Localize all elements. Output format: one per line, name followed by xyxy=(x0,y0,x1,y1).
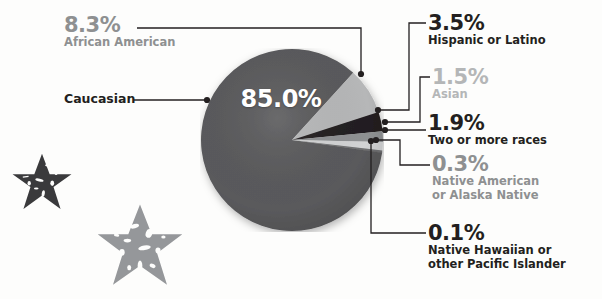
callout-hispanic-label: Hispanic or Latino xyxy=(428,34,546,48)
callout-african-american-percent: 8.3% xyxy=(64,14,175,36)
callout-native-hawaiian-label-line2: other Pacific Islander xyxy=(428,258,566,272)
callout-native-hawaiian-label-line1: Native Hawaiian or xyxy=(428,244,566,258)
callout-two-or-more-races: 1.9% Two or more races xyxy=(428,112,547,148)
pie-center-value: 85.0% xyxy=(221,85,341,113)
callout-native-hawaiian-percent: 0.1% xyxy=(428,222,566,244)
pie-chart-svg xyxy=(200,48,384,232)
pie-chart xyxy=(200,48,384,232)
pie-slices xyxy=(201,49,383,231)
callout-african-american: 8.3% African American xyxy=(64,14,175,50)
callout-asian-label: Asian xyxy=(432,88,488,102)
callout-native-american-label-line2: or Alaska Native xyxy=(432,189,539,203)
callout-caucasian-label: Caucasian xyxy=(64,91,135,106)
callout-two-or-more-races-percent: 1.9% xyxy=(428,112,547,134)
callout-two-or-more-races-label: Two or more races xyxy=(428,134,547,148)
callout-caucasian: Caucasian xyxy=(64,91,135,106)
star-icon xyxy=(10,150,74,214)
callout-asian: 1.5% Asian xyxy=(432,66,488,102)
leader-line-native-american xyxy=(376,140,430,165)
callout-native-american-label-line1: Native American xyxy=(432,175,539,189)
ethnicity-pie-infographic: 85.0% 8.3% A xyxy=(0,0,602,299)
callout-native-american: 0.3% Native American or Alaska Native xyxy=(432,153,539,202)
leader-line-hispanic xyxy=(378,23,426,110)
callout-asian-percent: 1.5% xyxy=(432,66,488,88)
pie-shading-overlay xyxy=(201,49,383,231)
callout-hispanic-percent: 3.5% xyxy=(428,12,546,34)
callout-hispanic: 3.5% Hispanic or Latino xyxy=(428,12,546,48)
callout-native-hawaiian: 0.1% Native Hawaiian or other Pacific Is… xyxy=(428,222,566,271)
callout-native-american-percent: 0.3% xyxy=(432,153,539,175)
star-icon xyxy=(95,200,185,292)
callout-african-american-label: African American xyxy=(64,36,175,50)
leader-line-asian xyxy=(385,77,430,122)
